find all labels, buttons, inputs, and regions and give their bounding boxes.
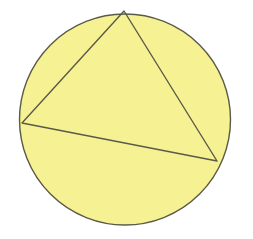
- circle-shape: [20, 14, 231, 225]
- figure-canvas: [0, 0, 253, 239]
- geometry-figure: [0, 0, 253, 239]
